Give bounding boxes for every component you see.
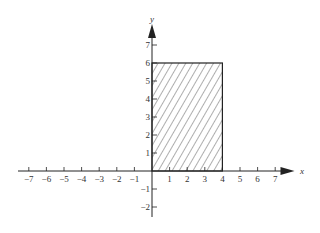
y-tick-label: 4 (146, 94, 151, 104)
x-tick-label: −7 (24, 174, 34, 184)
coordinate-diagram: −7−6−5−4−3−2−11234567−2−11234567 x y (0, 0, 320, 233)
x-tick-label: 2 (185, 174, 190, 184)
x-tick-label: 1 (167, 174, 172, 184)
x-tick-label: −6 (42, 174, 52, 184)
x-tick-label: −2 (112, 174, 122, 184)
x-tick-label: −1 (130, 174, 140, 184)
x-axis-label: x (299, 166, 304, 176)
y-tick-label: 3 (146, 112, 151, 122)
shaded-rectangle (152, 63, 222, 171)
plot-svg: −7−6−5−4−3−2−11234567−2−11234567 x y (0, 0, 320, 233)
x-tick-label: 4 (220, 174, 225, 184)
x-tick-label: 7 (273, 174, 278, 184)
y-tick-label: 1 (146, 148, 151, 158)
y-tick-label: 7 (146, 40, 151, 50)
y-tick-label: 2 (146, 130, 151, 140)
y-axis-label: y (149, 14, 154, 24)
x-tick-label: 5 (238, 174, 243, 184)
y-tick-label: 5 (146, 76, 151, 86)
x-tick-label: 3 (203, 174, 208, 184)
x-axis-arrow-icon (280, 167, 294, 175)
hatched-rectangle (152, 63, 222, 171)
y-axis-arrow-icon (148, 24, 156, 38)
y-tick-label: −2 (140, 202, 150, 212)
x-tick-label: 6 (255, 174, 260, 184)
y-tick-label: −1 (140, 184, 150, 194)
ticks: −7−6−5−4−3−2−11234567−2−11234567 (24, 40, 278, 212)
x-tick-label: −5 (59, 174, 69, 184)
x-tick-label: −4 (77, 174, 87, 184)
x-tick-label: −3 (94, 174, 104, 184)
y-tick-label: 6 (146, 58, 151, 68)
